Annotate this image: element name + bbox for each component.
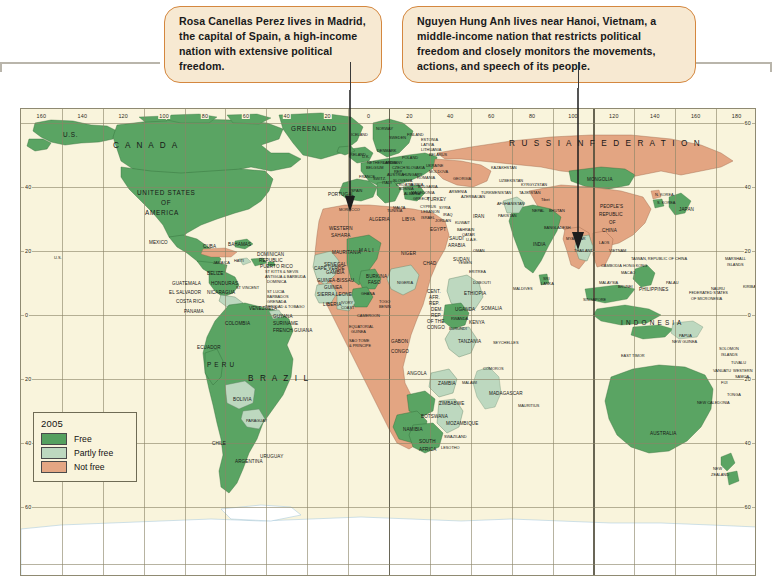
country-label: BRUNEI xyxy=(618,285,633,289)
country-label: WESTERN xyxy=(329,226,353,231)
country-label: U.K. xyxy=(362,155,370,159)
country-label: UZBEKISTAN xyxy=(499,179,523,183)
country-label: MACEDONIA xyxy=(411,191,435,195)
legend-year: 2005 xyxy=(41,418,130,429)
country-label: COAST xyxy=(341,306,354,310)
country-label: POLAND xyxy=(402,156,418,160)
callout-madrid-leader-line xyxy=(350,62,351,90)
legend-swatch xyxy=(41,447,67,459)
country-label: P E R U xyxy=(207,361,235,368)
country-label: SUDAN xyxy=(453,257,470,262)
latitude-label-right: 0 xyxy=(747,312,752,318)
legend-swatch xyxy=(41,461,67,473)
country-label: DOMINICA xyxy=(267,280,286,284)
country-label: SOUTH xyxy=(419,439,436,444)
country-label: BELIZE xyxy=(207,271,223,276)
country-label: PORTUGAL xyxy=(328,192,354,197)
country-label: ICELAND xyxy=(351,133,368,137)
country-label: CAMEROON xyxy=(357,314,380,318)
country-label: MALAYSIA xyxy=(599,281,618,285)
latitude-label-left: 40 xyxy=(24,184,32,190)
country-label: ISLANDS xyxy=(721,353,738,357)
country-label: GHANA xyxy=(361,292,375,296)
latitude-label-right: 60 xyxy=(744,120,752,126)
country-label: M A L I xyxy=(359,248,374,253)
country-label: ETHIOPIA xyxy=(464,291,486,296)
country-label: TURKEY xyxy=(427,197,446,202)
country-label: OF xyxy=(161,199,171,206)
country-label: N. KOREA xyxy=(655,193,674,197)
country-label: SYRIA xyxy=(439,206,451,210)
callout-hanoi-leader-line xyxy=(578,62,579,88)
country-label: ZIMBABWE xyxy=(439,401,464,406)
country-label: OF xyxy=(609,220,616,225)
longitude-label: 80 xyxy=(201,113,209,119)
country-label: TONGA xyxy=(727,393,741,397)
latitude-label-right: 20 xyxy=(744,248,752,254)
legend-item-free: Free xyxy=(41,433,130,445)
country-label: FIJI xyxy=(721,381,727,385)
country-label: U.A.E. xyxy=(466,238,477,242)
country-label: EL SALVADOR xyxy=(169,290,201,295)
country-label: ST VINCENT xyxy=(236,286,259,290)
country-label: LAOS xyxy=(599,241,609,245)
latitude-label-right: 60 xyxy=(744,504,752,510)
longitude-label: 180 xyxy=(731,113,743,119)
country-label: CAMBODIA xyxy=(601,264,622,268)
country-label: SAUDI xyxy=(449,236,464,241)
longitude-label: 140 xyxy=(649,113,661,119)
country-label: CENT. xyxy=(427,289,441,294)
longitude-label: 80 xyxy=(528,113,536,119)
country-label: BULGARIA xyxy=(418,185,438,189)
country-label: REP. xyxy=(429,301,440,306)
country-label: AMERICA xyxy=(145,209,179,216)
country-label: I N D O N E S I A xyxy=(621,319,682,326)
country-label: ANGOLA xyxy=(407,371,427,376)
longitude-label: 160 xyxy=(36,113,48,119)
country-label: BOTSWANA xyxy=(421,414,448,419)
country-label: HONDURAS xyxy=(211,281,238,286)
country-label: JAMAICA xyxy=(213,261,230,265)
country-label: REPUBLIC xyxy=(259,258,283,263)
country-label: FEDERATED STATES xyxy=(689,291,728,295)
country-label: NAURU xyxy=(711,287,725,291)
country-label: NIGER xyxy=(401,251,416,256)
country-label: SAMOA xyxy=(735,375,749,379)
longitude-label: 100 xyxy=(567,113,579,119)
country-label: NAMIBIA xyxy=(403,427,423,432)
country-label: COMOROS xyxy=(483,367,504,371)
country-label: OF THE xyxy=(427,319,444,324)
legend-label: Free xyxy=(74,434,92,444)
country-label: SAHARA xyxy=(331,233,351,238)
country-label: VIETNAM xyxy=(609,249,626,253)
country-label: NICARAGUA xyxy=(207,290,235,295)
country-label: B R A Z I L xyxy=(248,374,310,383)
country-label: KENYA xyxy=(469,320,485,325)
country-label: BELGIUM xyxy=(366,166,384,170)
country-label: DEM. xyxy=(431,307,443,312)
country-label: GUINEA xyxy=(351,330,366,334)
country-label: NORWAY xyxy=(376,127,393,131)
legend-swatch xyxy=(41,433,67,445)
country-label: THAILAND xyxy=(574,249,593,253)
country-label: ROMANIA xyxy=(417,176,435,180)
country-label: GUINEA xyxy=(324,285,342,290)
country-label: AFR. xyxy=(429,295,440,300)
country-label: MACAO xyxy=(621,271,635,275)
longitude-label: 20 xyxy=(405,113,413,119)
country-label: UNITED STATES xyxy=(137,189,196,196)
country-label: VENEZUELA xyxy=(249,306,277,311)
page-rule-tick-left xyxy=(0,62,2,72)
country-label: TUNISIA xyxy=(387,209,402,213)
country-label: GUINEA-BISSAU xyxy=(317,278,354,283)
country-label: MALDIVES xyxy=(513,287,533,291)
country-label: OMAN xyxy=(473,249,485,253)
world-map[interactable]: .free{fill:#5aa463;stroke:#2f6b38;stroke… xyxy=(20,108,756,576)
country-label: URUGUAY xyxy=(260,454,283,459)
country-label: TANZANIA xyxy=(458,339,481,344)
country-label: Tibet xyxy=(541,198,550,202)
country-label: ALGERIA xyxy=(369,217,390,222)
country-label: KAZAKHSTAN xyxy=(491,166,517,170)
country-label: BELARUS xyxy=(429,153,447,157)
country-label: ERITREA xyxy=(469,270,486,274)
